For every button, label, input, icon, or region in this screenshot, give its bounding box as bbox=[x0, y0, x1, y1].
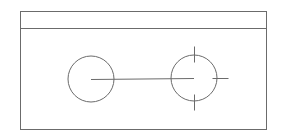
diagram-canvas bbox=[0, 0, 283, 134]
outer-frame bbox=[21, 12, 267, 130]
connector-line bbox=[91, 79, 194, 80]
